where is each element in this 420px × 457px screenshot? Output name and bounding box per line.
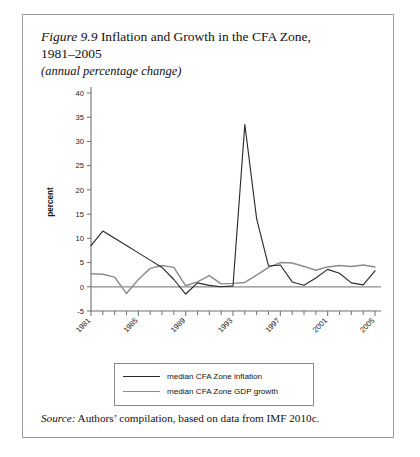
svg-text:10: 10 bbox=[76, 234, 84, 243]
svg-text:2005: 2005 bbox=[358, 316, 376, 334]
svg-text:35: 35 bbox=[76, 113, 84, 122]
svg-text:2001: 2001 bbox=[311, 316, 329, 334]
figure-container: Figure 9.9 Inflation and Growth in the C… bbox=[22, 14, 394, 438]
svg-text:1993: 1993 bbox=[216, 316, 234, 334]
x-axis-ticks: 1981198519891993199720012005 bbox=[74, 311, 376, 334]
y-axis-ticks: -50510152025303540 bbox=[76, 89, 91, 316]
svg-text:1981: 1981 bbox=[74, 316, 92, 334]
legend-item-inflation: median CFA Zone inflation bbox=[123, 369, 305, 384]
y-axis-label: percent bbox=[46, 187, 55, 217]
legend-label-inflation: median CFA Zone inflation bbox=[167, 372, 262, 381]
svg-text:15: 15 bbox=[76, 210, 84, 219]
chart-legend: median CFA Zone inflation median CFA Zon… bbox=[114, 363, 314, 406]
source-text: Authors’ compilation, based on data from… bbox=[75, 412, 319, 424]
legend-label-gdp-growth: median CFA Zone GDP growth bbox=[167, 387, 278, 396]
svg-text:1985: 1985 bbox=[121, 316, 139, 334]
svg-text:25: 25 bbox=[76, 161, 84, 170]
source-label: Source: bbox=[41, 412, 75, 424]
legend-swatch-gdp-growth bbox=[123, 391, 160, 392]
source-note: Source: Authors’ compilation, based on d… bbox=[41, 412, 377, 424]
legend-swatch-inflation bbox=[123, 376, 160, 377]
svg-text:40: 40 bbox=[76, 89, 84, 98]
svg-text:1997: 1997 bbox=[263, 316, 281, 334]
series-line-inflation bbox=[91, 124, 375, 294]
svg-text:20: 20 bbox=[76, 186, 84, 195]
svg-text:5: 5 bbox=[80, 258, 84, 267]
svg-text:0: 0 bbox=[80, 283, 84, 292]
svg-text:30: 30 bbox=[76, 137, 84, 146]
svg-text:1989: 1989 bbox=[169, 316, 187, 334]
svg-text:-5: -5 bbox=[77, 307, 84, 316]
legend-item-gdp-growth: median CFA Zone GDP growth bbox=[123, 384, 305, 399]
